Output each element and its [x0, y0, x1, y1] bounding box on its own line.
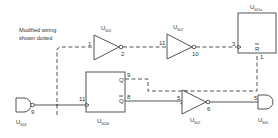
pin-label: 11	[79, 96, 86, 102]
pin-label: 3	[232, 41, 236, 47]
component-label: U602	[101, 25, 111, 33]
component-label: U601b	[97, 118, 109, 126]
pin-label: 6	[207, 106, 211, 112]
gate-u605: 5 U605	[254, 95, 273, 125]
ref-sub: 601b	[101, 122, 109, 126]
pin-label: 1	[260, 54, 264, 60]
q-label: Q	[119, 77, 124, 83]
note-line-1: Modified wiring	[19, 27, 56, 33]
inverter-u602-3: 5 6 U602	[177, 90, 211, 125]
dotted-wire-q-to-reset	[184, 56, 257, 91]
flip-flop-u601a: 3 R 1 U601a	[232, 4, 276, 60]
inverter-u602-1: 1 2 U602	[88, 25, 125, 60]
junction-dot	[56, 104, 58, 106]
dotted-wire-q-out	[125, 79, 184, 91]
ref-sub: 602	[194, 121, 200, 125]
flip-flop-u601b: 11 Q Q 9 8 U601b	[79, 72, 131, 126]
ref-sub: 604	[20, 123, 26, 127]
component-label: U602	[173, 24, 183, 32]
component-label: U605	[258, 117, 268, 125]
pin-label: 8	[127, 94, 131, 100]
r-label: R	[255, 46, 260, 52]
schematic-diagram: Modified wiring shown dotted 1 2 U602 11…	[0, 0, 278, 138]
pin-label: 5	[254, 95, 258, 101]
pin-label: 5	[177, 95, 181, 101]
ref-sub: 602	[177, 28, 183, 32]
ref-sub: 605	[262, 121, 268, 125]
component-label: U602	[190, 117, 200, 125]
note-line-2: shown dotted	[19, 35, 52, 41]
pin-label: 1	[88, 41, 92, 47]
pin-label: 9	[127, 72, 131, 78]
ref-sub: 601a	[254, 8, 262, 12]
qbar-label: Q	[119, 98, 124, 104]
pin-label: 11	[159, 40, 166, 46]
pin-label: 9	[31, 109, 35, 115]
pin-label: 10	[192, 51, 199, 57]
ref-sub: 602	[105, 29, 111, 33]
gate-u604: 9 U604	[16, 98, 35, 127]
pin-label: 2	[121, 51, 125, 57]
component-label: U604	[16, 119, 26, 127]
inverter-u602-2: 11 10 U602	[159, 24, 199, 59]
component-label: U601a	[250, 4, 262, 12]
